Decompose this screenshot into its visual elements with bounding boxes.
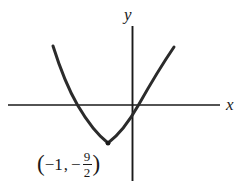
open-parenthesis: (: [37, 152, 45, 175]
parabola-curve: [53, 46, 174, 143]
parabola-figure: y x ( −1 , − 9 2 ): [0, 0, 246, 192]
fraction-denominator: 2: [83, 166, 92, 179]
vertex-y-fraction: 9 2: [83, 150, 92, 180]
vertex-x-value: −1: [45, 156, 63, 173]
coordinate-comma: ,: [64, 156, 68, 173]
close-parenthesis: ): [93, 152, 101, 175]
fraction-numerator: 9: [83, 150, 92, 163]
y-axis-label: y: [124, 6, 132, 23]
vertex-y-negative-sign: −: [71, 156, 81, 173]
x-axis-label: x: [226, 96, 234, 113]
vertex-point-marker: [106, 141, 111, 146]
vertex-coordinate-label: ( −1 , − 9 2 ): [37, 150, 100, 180]
